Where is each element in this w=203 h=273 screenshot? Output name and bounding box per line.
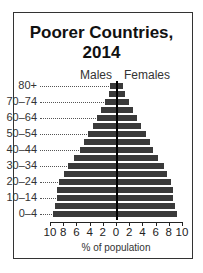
bar-males [101,107,116,113]
age-label: 70–74 [0,95,37,107]
bar-males [55,203,116,209]
leader-dots [40,150,79,151]
bar-females [116,115,137,121]
bar-males [64,171,116,177]
bar-females [116,107,133,113]
bar-females [116,139,150,145]
bar-males [57,187,116,193]
bar-males [80,147,116,153]
age-label: 50–54 [0,127,37,139]
bar-females [116,147,153,153]
leader-dots [40,182,58,183]
bar-males [57,195,116,201]
bar-males [88,131,116,137]
bar-females [116,131,146,137]
bar-males [74,155,116,161]
center-axis [116,81,118,220]
age-label: 0–4 [0,207,37,219]
leader-dots [40,118,96,119]
x-axis-label: % of population [0,242,203,253]
bar-females [116,155,158,161]
age-label: 20–24 [0,175,37,187]
leader-dots [40,214,52,215]
age-label: 60–64 [0,111,37,123]
bar-males [109,91,116,97]
age-label: 10–14 [0,191,37,203]
bar-males [93,123,116,129]
age-label: 40–44 [0,143,37,155]
age-label: 30–34 [0,159,37,171]
bar-males [59,179,116,185]
leader-dots [40,198,56,199]
bar-females [116,163,164,169]
bar-females [116,179,171,185]
leader-dots [40,134,87,135]
bar-females [116,203,175,209]
bar-males [105,99,116,105]
bar-females [116,187,173,193]
bar-females [116,99,129,105]
bar-females [116,195,173,201]
bar-males [68,163,116,169]
bar-females [116,171,167,177]
age-label: 80+ [0,79,37,91]
bar-males [84,139,116,145]
leader-dots [40,86,109,87]
leader-dots [40,102,104,103]
legend-females: Females [124,68,170,82]
bar-females [116,123,141,129]
leader-dots [40,166,67,167]
bar-males [53,211,116,217]
bar-females [116,211,177,217]
legend-males: Males [80,68,112,82]
x-tick-label: 10 [174,226,190,238]
bar-males [97,115,116,121]
chart-title: Poorer Countries, 2014 [0,23,203,63]
